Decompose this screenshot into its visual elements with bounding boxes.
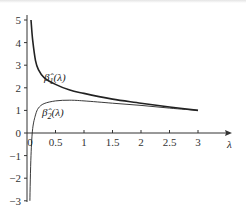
x-tick-label: 1 [81, 136, 87, 148]
y-tick-label: 2 [16, 82, 22, 94]
y-tick-label: −2 [9, 172, 21, 184]
y-tick-label: 3 [16, 59, 22, 71]
y-tick-label: 1 [16, 104, 22, 116]
y-tick-label: 4 [16, 37, 22, 49]
y-tick-label: 5 [16, 14, 22, 26]
y-tick-label: 0 [16, 127, 22, 139]
x-tick-label: 2.5 [163, 136, 177, 148]
x-tick-label: 1.5 [106, 136, 120, 148]
x-axis-label: λ [226, 138, 232, 150]
y-tick-label: −1 [9, 150, 21, 162]
curve-labels: β̂1(λ) β̂2(λ) [41, 71, 66, 121]
line-chart: 00.511.522.53 543210−1−2−3 λ β̂1(λ) β̂2(… [0, 0, 246, 219]
x-axis-arrow-icon [225, 130, 232, 136]
x-tick-label: 2 [138, 136, 144, 148]
x-tick-label: 3 [195, 136, 201, 148]
y-tick-label: −3 [9, 195, 21, 207]
y-ticks: 543210−1−2−3 [9, 14, 27, 207]
beta2-label: β̂2(λ) [41, 106, 64, 121]
beta1-curve [31, 20, 198, 110]
x-tick-label: 0.5 [49, 136, 63, 148]
